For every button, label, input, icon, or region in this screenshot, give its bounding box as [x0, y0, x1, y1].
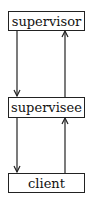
node-client: client	[8, 173, 85, 193]
arrow-supervisee-to-supervisor	[62, 31, 68, 97]
node-label: supervisee	[11, 100, 82, 115]
node-supervisor: supervisor	[8, 11, 85, 31]
arrow-supervisee-to-client	[14, 117, 20, 172]
arrow-supervisor-to-supervisee	[14, 30, 20, 96]
node-label: client	[28, 176, 65, 191]
arrow-client-to-supervisee	[62, 118, 68, 173]
node-label: supervisor	[12, 14, 82, 29]
node-supervisee: supervisee	[8, 97, 85, 118]
